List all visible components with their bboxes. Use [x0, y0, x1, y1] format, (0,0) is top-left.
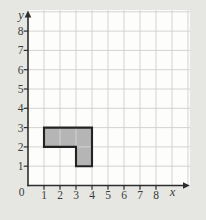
coordinate-grid-figure: 12345678123456780xy: [0, 0, 206, 220]
x-tick-label: 1: [41, 189, 47, 201]
y-tick-label: 6: [18, 64, 24, 76]
y-tick-label: 8: [18, 25, 24, 37]
y-tick-label: 4: [18, 102, 24, 114]
x-tick-label: 4: [89, 189, 95, 201]
x-tick-label: 8: [153, 189, 159, 201]
x-tick-label: 3: [73, 189, 79, 201]
y-tick-label: 7: [18, 44, 24, 56]
origin-label: 0: [19, 186, 25, 198]
x-tick-label: 7: [137, 189, 143, 201]
chart-svg: 12345678123456780xy: [0, 0, 206, 220]
y-tick-label: 2: [18, 141, 24, 153]
y-tick-label: 1: [18, 160, 24, 172]
x-tick-label: 2: [57, 189, 63, 201]
y-tick-label: 3: [18, 122, 24, 134]
y-tick-label: 5: [18, 83, 24, 95]
x-tick-label: 5: [105, 189, 111, 201]
plot-area: [28, 10, 190, 186]
y-axis-label: y: [16, 8, 24, 22]
x-axis-label: x: [169, 185, 176, 199]
x-tick-label: 6: [121, 189, 127, 201]
